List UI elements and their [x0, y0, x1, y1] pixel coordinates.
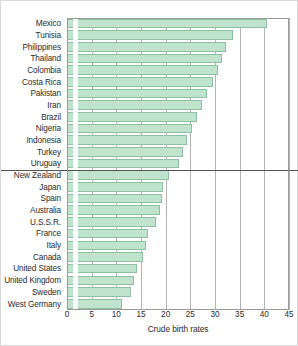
category-label: West Germany [0, 299, 61, 310]
x-tick-label-45: 45 [284, 310, 293, 320]
category-label: Japan [0, 182, 61, 193]
bar-japan [67, 182, 163, 192]
bar-row [67, 146, 289, 157]
bar-row [67, 252, 289, 263]
category-label: Italy [0, 240, 61, 251]
bar-row [67, 30, 289, 41]
bar-row [67, 217, 289, 228]
bar-row [67, 170, 289, 181]
bar-u-s-s-r [67, 217, 156, 227]
bar-row [67, 18, 289, 29]
category-label: U.S.S.R. [0, 217, 61, 228]
category-label: Indonesia [0, 135, 61, 146]
bar-row [67, 65, 289, 76]
plot-area [67, 18, 289, 310]
category-label: France [0, 228, 61, 239]
bar-row [67, 100, 289, 111]
bar-france [67, 229, 148, 239]
chart-figure: MexicoTunisiaPhilippinesThailandColombia… [0, 0, 298, 346]
category-label: Sweden [0, 287, 61, 298]
bar-thailand [67, 54, 222, 64]
bar-pakistan [67, 89, 207, 99]
bar-united-states [67, 264, 137, 274]
bar-row [67, 41, 289, 52]
category-label: Turkey [0, 147, 61, 158]
x-tick-label-0: 0 [65, 310, 70, 320]
x-tick-label-40: 40 [260, 310, 269, 320]
category-label: Costa Rica [0, 77, 61, 88]
category-label: Brazil [0, 112, 61, 123]
bar-italy [67, 241, 146, 251]
bar-row [67, 275, 289, 286]
bar-sweden [67, 287, 131, 297]
category-label: Spain [0, 193, 61, 204]
gridline-45 [289, 18, 290, 310]
bar-philippines [67, 42, 226, 52]
bar-nigeria [67, 124, 192, 134]
bar-row [67, 263, 289, 274]
bar-row [67, 53, 289, 64]
category-label: Tunisia [0, 30, 61, 41]
bar-united-kingdom [67, 276, 134, 286]
category-label: Thailand [0, 53, 61, 64]
bar-new-zealand [67, 170, 169, 180]
bar-row [67, 287, 289, 298]
x-tick-label-35: 35 [235, 310, 244, 320]
bar-iran [67, 100, 202, 110]
category-label: Uruguay [0, 158, 61, 169]
category-label: Philippines [0, 42, 61, 53]
x-tick-label-30: 30 [210, 310, 219, 320]
bar-canada [67, 252, 143, 262]
bar-row [67, 135, 289, 146]
x-tick-label-5: 5 [89, 310, 94, 320]
bar-row [67, 240, 289, 251]
bar-australia [67, 205, 160, 215]
bar-turkey [67, 147, 183, 157]
bar-brazil [67, 112, 197, 122]
category-label: Iran [0, 100, 61, 111]
bar-spain [67, 194, 162, 204]
bar-indonesia [67, 135, 187, 145]
category-label: Canada [0, 252, 61, 263]
bar-row [67, 158, 289, 169]
category-label: United States [0, 263, 61, 274]
category-label: United Kingdom [0, 275, 61, 286]
category-label: Australia [0, 205, 61, 216]
bar-tunisia [67, 30, 233, 40]
category-label: New Zealand [0, 170, 61, 181]
bar-row [67, 88, 289, 99]
category-label: Mexico [0, 18, 61, 29]
bar-row [67, 123, 289, 134]
bar-row [67, 76, 289, 87]
category-label: Nigeria [0, 123, 61, 134]
bar-colombia [67, 65, 218, 75]
x-axis-ticks: 051015202530354045 [67, 310, 289, 324]
bar-row [67, 298, 289, 309]
x-tick-label-10: 10 [112, 310, 121, 320]
bar-row [67, 111, 289, 122]
bar-west-germany [67, 299, 122, 309]
group-divider-line [1, 170, 298, 171]
bar-row [67, 182, 289, 193]
category-label: Pakistan [0, 88, 61, 99]
bar-row [67, 205, 289, 216]
bar-row [67, 193, 289, 204]
bar-uruguay [67, 159, 179, 169]
x-tick-label-25: 25 [186, 310, 195, 320]
x-tick-label-20: 20 [161, 310, 170, 320]
bar-costa-rica [67, 77, 213, 87]
x-tick-label-15: 15 [136, 310, 145, 320]
x-axis-title: Crude birth rates [67, 324, 289, 334]
bar-mexico [67, 19, 267, 29]
bar-row [67, 228, 289, 239]
category-axis-labels: MexicoTunisiaPhilippinesThailandColombia… [1, 18, 65, 310]
category-label: Colombia [0, 65, 61, 76]
